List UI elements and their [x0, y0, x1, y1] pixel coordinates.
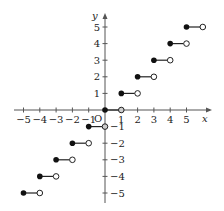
closed-dot [135, 74, 141, 80]
open-dot [151, 74, 157, 80]
y-tick-label: 4 [94, 38, 100, 49]
y-axis-label: y [91, 10, 98, 21]
open-dot [167, 57, 173, 63]
origin-label: O [94, 113, 102, 124]
closed-dot [167, 41, 173, 47]
y-tick-label: −3 [110, 154, 125, 165]
closed-dot [21, 190, 27, 196]
x-tick-label: −5 [16, 114, 31, 125]
closed-dot [70, 140, 76, 146]
x-axis-label: x [202, 113, 208, 124]
open-dot [102, 124, 108, 130]
y-tick-label: −1 [110, 121, 125, 132]
y-axis-arrow-icon [103, 13, 108, 19]
open-dot [70, 157, 76, 163]
open-dot [119, 107, 125, 113]
y-tick-label: 5 [94, 22, 100, 33]
y-tick-label: 3 [94, 55, 100, 66]
x-tick-label: 3 [151, 114, 157, 125]
closed-dot [184, 24, 190, 30]
x-tick-label: 5 [183, 114, 189, 125]
x-tick-label: −3 [49, 114, 64, 125]
closed-dot [86, 124, 92, 130]
x-tick-label: 2 [134, 114, 140, 125]
x-tick-label: −2 [65, 114, 80, 125]
y-tick-label: −4 [110, 171, 125, 182]
open-dot [53, 174, 59, 180]
step-function-chart: −5−4−3−2−112345−5−4−3−2−112345 x y O [0, 0, 224, 211]
open-dot [86, 140, 92, 146]
x-axis-arrow-icon [206, 108, 212, 113]
closed-dot [102, 107, 108, 113]
closed-dot [53, 157, 59, 163]
y-tick-label: 2 [94, 71, 100, 82]
open-dot [200, 24, 206, 30]
closed-dot [151, 57, 157, 63]
y-tick-label: −5 [110, 188, 125, 199]
closed-dot [37, 174, 43, 180]
open-dot [135, 91, 141, 97]
y-tick-label: −2 [110, 138, 125, 149]
x-tick-label: −4 [32, 114, 47, 125]
closed-dot [119, 91, 125, 97]
open-dot [184, 41, 190, 47]
x-tick-label: 4 [167, 114, 173, 125]
y-tick-label: 1 [94, 88, 100, 99]
open-dot [37, 190, 43, 196]
